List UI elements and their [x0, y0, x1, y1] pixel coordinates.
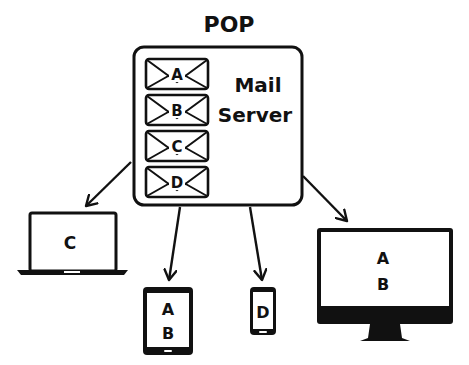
- arrow-to-tablet: [169, 207, 180, 280]
- diagram-title: POP: [204, 12, 255, 37]
- phone-message: D: [256, 303, 269, 322]
- arrow-to-laptop: [86, 162, 131, 206]
- envelope-label: D: [171, 174, 183, 192]
- pop-diagram: POP Mail Server A B C D: [0, 0, 469, 365]
- envelope-icon: C: [146, 131, 208, 161]
- phone-icon: D: [250, 287, 276, 335]
- tablet-icon: A B: [143, 287, 193, 355]
- server-label-line2: Server: [218, 103, 292, 127]
- tablet-message: A: [162, 300, 175, 319]
- desktop-message: B: [377, 275, 389, 294]
- desktop-message: A: [377, 249, 390, 268]
- envelope-icon: B: [146, 95, 208, 125]
- envelope-icon: D: [146, 167, 208, 197]
- envelope-label: B: [171, 102, 182, 120]
- laptop-message: C: [64, 233, 76, 253]
- desktop-monitor-icon: A B: [317, 228, 453, 341]
- envelope-label: A: [171, 66, 183, 84]
- laptop-icon: C: [17, 213, 128, 275]
- mail-server: Mail Server A B C D: [134, 47, 302, 205]
- arrow-to-desktop: [303, 176, 347, 221]
- tablet-message: B: [162, 324, 174, 343]
- envelope-icon: A: [146, 59, 208, 89]
- envelope-label: C: [171, 138, 182, 156]
- server-label-line1: Mail: [234, 73, 281, 97]
- arrow-to-phone: [250, 207, 262, 280]
